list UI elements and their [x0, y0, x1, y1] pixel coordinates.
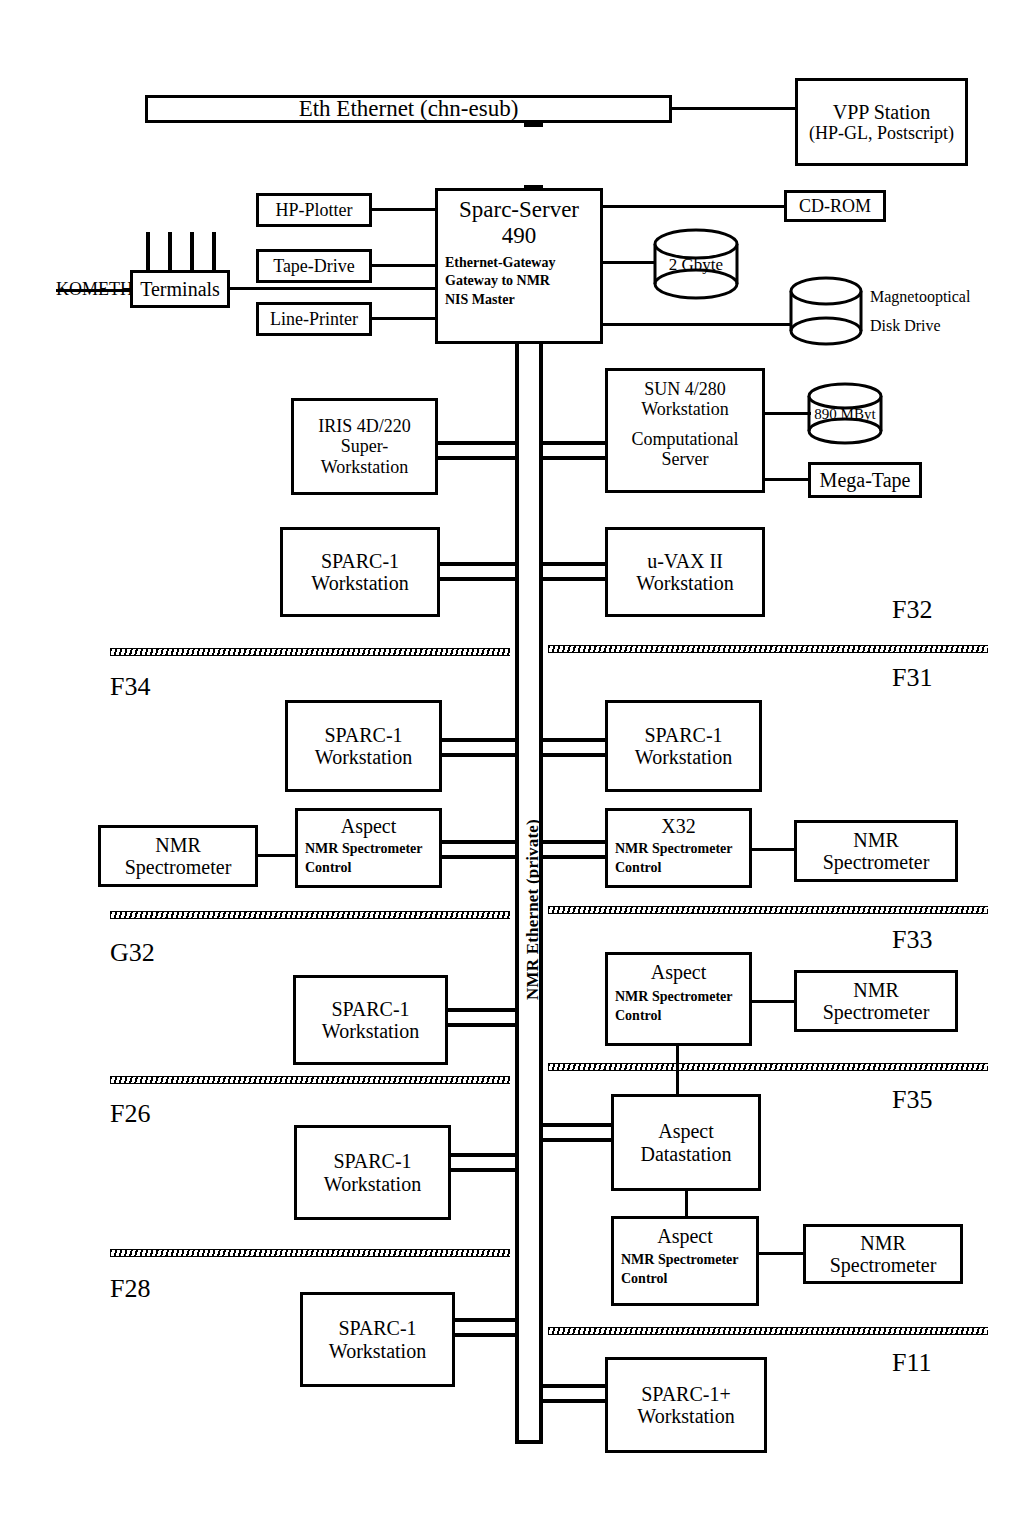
aspect-datastation-line1: Aspect: [658, 1120, 714, 1142]
node-aspect-f34: Aspect NMR Spectrometer Control: [295, 808, 442, 888]
link-sparc-server-to-cdrom: [603, 205, 784, 208]
mega-tape-label: Mega-Tape: [820, 469, 911, 491]
node-hp-plotter: HP-Plotter: [256, 193, 372, 227]
node-x32-f31: X32 NMR Spectrometer Control: [605, 808, 752, 888]
node-vpp-station: VPP Station (HP-GL, Postscript): [795, 78, 968, 166]
node-sparc1-f34: SPARC-1 Workstation: [285, 700, 442, 792]
node-aspect-f33: Aspect NMR Spectrometer Control: [605, 952, 752, 1046]
nmr-spec-f35-line1: NMR: [860, 1232, 906, 1254]
magnetooptical-line2: Disk Drive: [870, 317, 941, 335]
link-x32-to-nmr-spec-f31: [752, 848, 796, 851]
disk-890mbyte-label: 890 MByt: [806, 406, 884, 423]
link-aspect-f35-to-nmr-spec: [759, 1252, 805, 1255]
divider-f31-f33-right: [548, 906, 988, 914]
sun4280-line3: Computational: [608, 429, 762, 449]
disk-2gbyte-label: 2 Gbyte: [652, 255, 740, 275]
divider-f26-f28-left: [110, 1249, 510, 1257]
x32-title: X32: [608, 815, 749, 837]
sparc1plus-line2: Workstation: [637, 1405, 734, 1427]
link-sun4280-to-disk-890mb: [765, 412, 811, 415]
sparc-server-sub1: Ethernet-Gateway: [438, 254, 600, 273]
aspect-f35-sub1: NMR Spectrometer: [614, 1251, 756, 1270]
aspect-f33-title: Aspect: [608, 961, 749, 983]
link-terminals-to-sparc-server: [230, 287, 435, 290]
node-nmr-spectrometer-f35: NMR Spectrometer: [803, 1224, 963, 1284]
link-aspect-datastation-to-backbone: [540, 1123, 613, 1142]
link-sun4280-to-mega-tape: [765, 478, 810, 481]
node-sparc1-f28: SPARC-1 Workstation: [300, 1292, 455, 1387]
aspect-f35-title: Aspect: [614, 1225, 756, 1247]
node-sparc1-f31: SPARC-1 Workstation: [605, 700, 762, 792]
divider-f35-f11-right: [548, 1327, 988, 1335]
link-sparc1-f34-to-backbone: [442, 738, 518, 757]
link-sparc1-g32-to-backbone: [448, 1008, 518, 1027]
terminal-antenna-3: [190, 232, 194, 272]
divider-f34-g32-left: [110, 911, 510, 919]
node-uvax-ii: u-VAX II Workstation: [605, 527, 765, 617]
node-sun-4-280: SUN 4/280 Workstation Computational Serv…: [605, 368, 765, 493]
label-kometh: KOMETH: [56, 279, 133, 300]
disk-magnetooptical: [788, 275, 864, 349]
link-sparc1plus-to-backbone: [540, 1384, 607, 1403]
nmr-spec-f35-line2: Spectrometer: [830, 1254, 937, 1276]
node-terminals: Terminals: [130, 270, 230, 308]
zone-label-f31: F31: [892, 663, 932, 693]
node-sparc1-f26: SPARC-1 Workstation: [294, 1125, 451, 1220]
node-cdrom: CD-ROM: [784, 190, 886, 222]
zone-label-f33: F33: [892, 925, 932, 955]
sparc1-f32-line1: SPARC-1: [321, 550, 399, 572]
zone-label-f11: F11: [892, 1348, 932, 1378]
x32-sub1: NMR Spectrometer: [608, 840, 749, 859]
vpp-station-line2: (HP-GL, Postscript): [809, 123, 954, 143]
hp-plotter-label: HP-Plotter: [275, 200, 352, 220]
terminals-label: Terminals: [140, 278, 220, 300]
link-line-printer-to-sparc-server: [372, 317, 435, 320]
link-sparc-server-to-disk-2gb: [603, 261, 655, 264]
node-nmr-spectrometer-f34: NMR Spectrometer: [98, 825, 258, 887]
sparc-server-line1: Sparc-Server: [438, 197, 600, 223]
sparc1-f28-line1: SPARC-1: [338, 1317, 416, 1339]
sparc1-f31-line2: Workstation: [635, 746, 732, 768]
link-sparc1-f28-to-backbone: [455, 1318, 518, 1337]
iris-line1: IRIS 4D/220: [318, 416, 411, 436]
sparc1-g32-line2: Workstation: [322, 1020, 419, 1042]
sparc1-f26-line2: Workstation: [324, 1173, 421, 1195]
sparc1plus-line1: SPARC-1+: [641, 1383, 730, 1405]
link-aspect-f33-to-nmr-spec: [752, 1000, 796, 1003]
aspect-f35-sub2: Control: [614, 1270, 756, 1289]
node-sparc1-f32: SPARC-1 Workstation: [280, 527, 440, 617]
node-sparc1-g32: SPARC-1 Workstation: [293, 975, 448, 1065]
aspect-f33-sub1: NMR Spectrometer: [608, 988, 749, 1007]
node-aspect-f35: Aspect NMR Spectrometer Control: [611, 1216, 759, 1306]
link-sparc1-f32-to-backbone: [440, 562, 518, 581]
link-hp-plotter-to-sparc-server: [372, 208, 435, 211]
node-sparc1plus-f11: SPARC-1+ Workstation: [605, 1357, 767, 1453]
sparc-server-sub3: NIS Master: [438, 291, 600, 310]
sparc1-f34-line1: SPARC-1: [324, 724, 402, 746]
link-sun4280-to-backbone: [540, 441, 607, 460]
nmr-spec-f33-line1: NMR: [853, 979, 899, 1001]
sparc1-f28-line2: Workstation: [329, 1340, 426, 1362]
disk-2gbyte: 2 Gbyte: [652, 228, 740, 302]
nmr-spec-f31-line1: NMR: [853, 829, 899, 851]
cdrom-label: CD-ROM: [799, 196, 871, 216]
zone-label-g32: G32: [110, 938, 155, 968]
network-diagram: Eth Ethernet (chn-esub) VPP Station (HP-…: [0, 0, 1019, 1529]
nmr-spec-f33-line2: Spectrometer: [823, 1001, 930, 1023]
terminal-antenna-2: [168, 232, 172, 272]
tape-drive-label: Tape-Drive: [273, 256, 355, 276]
uvax-line1: u-VAX II: [647, 550, 723, 572]
sparc-server-sub2: Gateway to NMR: [438, 272, 600, 291]
aspect-f33-sub2: Control: [608, 1007, 749, 1026]
iris-line3: Workstation: [321, 457, 409, 477]
node-line-printer: Line-Printer: [256, 302, 372, 336]
sparc-server-line2: 490: [438, 223, 600, 249]
link-ethernet-to-vpp: [672, 107, 795, 110]
link-ethernet-to-sparc-server: [524, 123, 543, 189]
nmr-spec-f34-line2: Spectrometer: [125, 856, 232, 878]
aspect-f34-sub1: NMR Spectrometer: [298, 840, 439, 859]
sparc1-f31-line1: SPARC-1: [644, 724, 722, 746]
node-tape-drive: Tape-Drive: [256, 249, 372, 283]
ethernet-backbone-label: Eth Ethernet (chn-esub): [299, 96, 519, 122]
node-nmr-spectrometer-f31: NMR Spectrometer: [794, 820, 958, 882]
